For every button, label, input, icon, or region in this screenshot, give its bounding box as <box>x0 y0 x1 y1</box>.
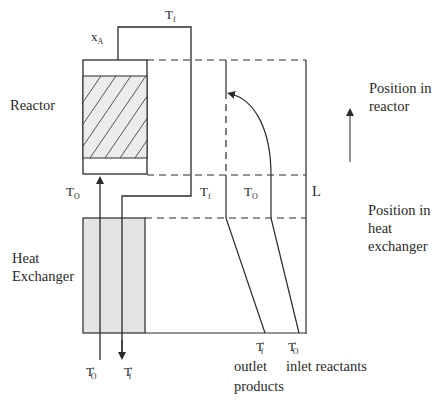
position-reactor-label-1: Position in <box>369 80 432 96</box>
heat-exchanger <box>83 218 145 333</box>
inlet-reactants-label: inlet reactants <box>286 358 367 374</box>
to-mid-label: TO <box>244 184 258 201</box>
position-hx-label-1: Position in <box>368 202 431 218</box>
position-hx-label-2: heat <box>368 220 392 236</box>
to-prime-bottom-label: T′O <box>86 364 97 381</box>
position-reactor-label-2: reactor <box>369 98 409 114</box>
tf-prime-right-label: T′f <box>256 339 264 356</box>
tf-prime-bottom-label: T′f <box>124 364 132 381</box>
heat-exchanger-label-1: Heat <box>12 250 39 266</box>
to-left-label: TO <box>66 184 80 201</box>
reactor-vessel <box>45 60 195 174</box>
outlet-label: outlet <box>234 358 267 374</box>
reactor-hx-diagram: Reactor Heat Exchanger xA Tf TO Tf TO L … <box>0 0 440 404</box>
temperature-profile <box>145 60 306 334</box>
reactor-temperature-curve <box>231 94 271 175</box>
outlet-product-profile <box>226 218 265 333</box>
to-prime-right-label: T′O <box>288 339 299 356</box>
tf-top-label: Tf <box>165 7 176 24</box>
products-label: products <box>234 378 284 394</box>
length-label: L <box>312 183 321 199</box>
tf-mid-label: Tf <box>200 184 211 201</box>
conversion-label: xA <box>91 29 104 46</box>
reactor-label: Reactor <box>10 97 55 113</box>
position-hx-label-3: exchanger <box>368 238 428 254</box>
heat-exchanger-label-2: Exchanger <box>12 268 74 284</box>
inlet-reactant-profile <box>271 218 299 333</box>
